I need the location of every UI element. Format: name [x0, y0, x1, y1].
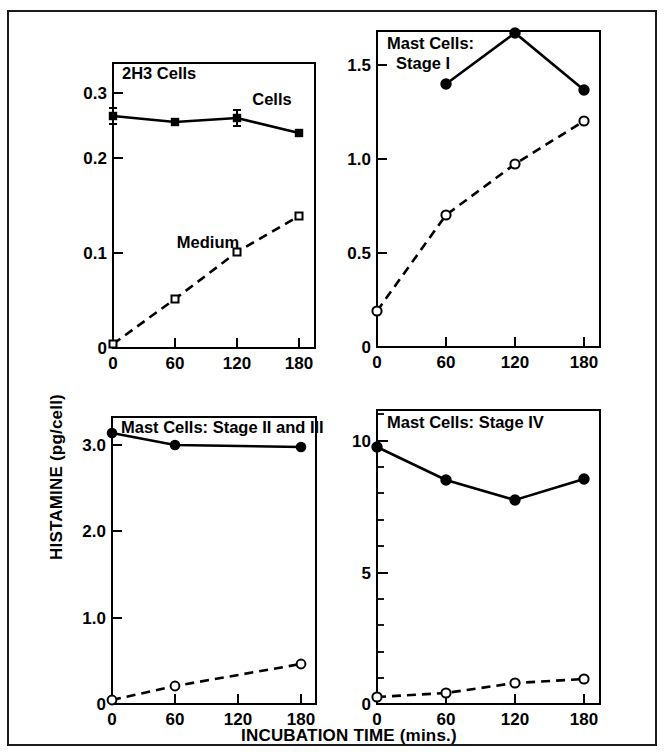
panel1-xtick-0: 0	[108, 354, 117, 373]
x-axis-label: INCUBATION TIME (mins.)	[241, 726, 457, 746]
panel4-xtick-60: 60	[437, 710, 456, 729]
panel1-xtick-120: 120	[223, 354, 251, 373]
panel3-title: Mast Cells: Stage II and III	[121, 418, 324, 436]
panel4-xtick-120: 120	[501, 710, 529, 729]
panel1-cells-label: Cells	[252, 90, 291, 108]
panel1-cells-markers	[110, 113, 303, 137]
panel1-ytick-0-3: 0.3	[83, 84, 107, 103]
chart-panel-2h3-cells: 0 0.1 0.2 0.3 0 60 120 180 2H3 Cells	[60, 52, 330, 372]
panel1-cells-line	[113, 116, 299, 133]
panel2-ytick-0-5: 0.5	[347, 244, 371, 263]
chart-panel-mast-stage-iv: 0 5 10 0 60 120 180 Mast Cells: Stage IV	[330, 402, 630, 728]
panel2-x-ticks	[446, 337, 584, 347]
chart-panel-mast-stage-i: 0 0.5 1.0 1.5 0 60 120 180 Mast Cells: S…	[330, 20, 630, 372]
panel2-xtick-0: 0	[372, 353, 381, 372]
panel1-x-ticks	[175, 338, 299, 348]
panel2-medium-line	[377, 121, 584, 311]
panel4-xtick-180: 180	[570, 710, 598, 729]
panel3-medium-line	[112, 664, 301, 700]
panel3-xtick-0: 0	[107, 710, 116, 729]
panel3-xtick-60: 60	[166, 710, 185, 729]
panel3-xtick-180: 180	[287, 710, 315, 729]
chart-panel-mast-stage-ii-iii: 0 1.0 2.0 3.0 0 60 120 180 Mast Cells: S…	[60, 408, 330, 728]
panel4-medium-markers	[372, 674, 588, 701]
panel3-ytick-0: 0	[97, 695, 106, 714]
figure-root: HISTAMINE (pg/cell) INCUBATION TIME (min…	[0, 0, 666, 755]
panel4-medium-line	[377, 679, 584, 697]
panel3-ytick-3-0: 3.0	[82, 436, 106, 455]
panel2-title-line2: Stage I	[396, 54, 450, 72]
panel4-ytick-10: 10	[352, 432, 371, 451]
panel1-ytick-0: 0	[98, 339, 107, 358]
panel1-title: 2H3 Cells	[122, 64, 196, 82]
panel4-x-ticks	[446, 694, 584, 704]
panel4-title: Mast Cells: Stage IV	[387, 413, 544, 431]
panel2-ytick-0: 0	[362, 338, 371, 357]
panel1-medium-label: Medium	[177, 233, 239, 251]
panel1-xtick-60: 60	[166, 354, 185, 373]
panel4-cells-line	[377, 447, 584, 500]
panel4-cells-markers	[372, 442, 589, 505]
panel3-xtick-120: 120	[224, 710, 252, 729]
panel2-xtick-120: 120	[501, 353, 529, 372]
panel2-medium-markers	[372, 116, 588, 315]
panel4-ytick-5: 5	[362, 564, 371, 583]
panel4-y-minor-ticks	[377, 414, 384, 678]
panel2-ytick-1-0: 1.0	[347, 150, 371, 169]
panel1-ytick-0-1: 0.1	[83, 244, 107, 263]
panel3-ytick-1-0: 1.0	[82, 609, 106, 628]
panel3-plot-frame	[112, 417, 316, 704]
panel4-plot-frame	[377, 410, 600, 704]
panel2-title-line1: Mast Cells:	[387, 34, 474, 52]
panel4-ytick-0: 0	[362, 695, 371, 714]
panel3-y-ticks	[112, 445, 122, 704]
panel3-medium-markers	[108, 660, 306, 705]
panel2-xtick-180: 180	[570, 353, 598, 372]
panel1-y-ticks	[113, 93, 123, 348]
panel2-ytick-1-5: 1.5	[347, 56, 371, 75]
panel1-ytick-0-2: 0.2	[83, 149, 107, 168]
panel2-plot-frame	[377, 31, 600, 347]
panel4-xtick-0: 0	[372, 710, 381, 729]
panel1-xtick-180: 180	[285, 354, 313, 373]
panel3-x-ticks	[175, 694, 301, 704]
panel4-y-ticks	[377, 441, 388, 704]
panel3-ytick-2-0: 2.0	[82, 522, 106, 541]
panel2-xtick-60: 60	[437, 353, 456, 372]
